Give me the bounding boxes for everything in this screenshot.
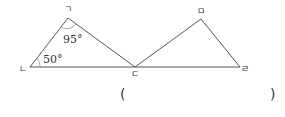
vertex-label-rieul: ㄹ [241,64,249,74]
vertex-label-giyeok: ㄱ [64,4,72,14]
vertex-label-mieum: ㅁ [197,6,205,16]
side-mieum-rieul [201,19,240,67]
answer-close-paren: ) [270,86,275,102]
angle-arc-nieun [37,58,40,67]
vertex-label-digeut: ㄷ [131,69,139,79]
angle-label-nieun: 50° [43,53,63,66]
answer-open-paren: ( [120,86,125,102]
triangle-diagram: ㄱ ㄴ ㄷ ㅁ ㄹ 95° 50° [0,0,285,117]
vertex-label-nieun: ㄴ [19,64,27,74]
side-digeut-mieum [135,19,201,67]
angle-label-giyeok: 95° [63,33,83,46]
